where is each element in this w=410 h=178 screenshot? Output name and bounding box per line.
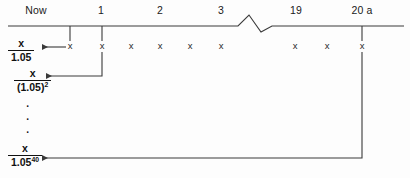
- ellipsis-dot: ·: [26, 100, 29, 113]
- cash-flow-mark: x: [325, 41, 330, 51]
- fraction-numerator: x: [8, 143, 42, 155]
- fraction-numerator: x: [14, 68, 51, 80]
- denominator-exponent: 2: [44, 80, 48, 87]
- diagram-line-layer: [0, 0, 410, 178]
- cash-flow-mark: x: [158, 41, 163, 51]
- cash-flow-mark: x: [100, 41, 105, 51]
- tick-drop-lines: [70, 26, 362, 41]
- fraction-denominator: (1.05)2: [14, 82, 51, 94]
- period-label-2: 2: [157, 4, 163, 16]
- cash-flow-mark: x: [293, 41, 298, 51]
- cash-flow-mark: x: [68, 41, 73, 51]
- discount-arrow-period-40: [42, 52, 362, 158]
- axis-line-with-break: [8, 15, 404, 32]
- timeline-axis: [8, 15, 404, 32]
- denominator-base: 1.05: [11, 156, 31, 168]
- discount-arrow-period-2: [46, 52, 102, 76]
- period-label-20a: 20 a: [351, 4, 372, 16]
- denominator-base: (1.05): [17, 81, 44, 93]
- discount-term-period-2: x (1.05)2: [14, 68, 51, 94]
- denominator-exponent: 40: [31, 155, 39, 162]
- discount-term-period-1: x 1.05: [8, 38, 34, 64]
- fraction-numerator: x: [8, 38, 34, 50]
- period-label-3: 3: [218, 4, 224, 16]
- cash-flow-mark: x: [360, 41, 365, 51]
- cash-flow-timeline-diagram: Now 1 2 3 19 20 a x x x x x x x x x x 1.…: [0, 0, 410, 178]
- fraction-denominator: 1.0540: [8, 157, 42, 169]
- cash-flow-mark: x: [219, 41, 224, 51]
- arrow-line-period-40: [42, 52, 362, 158]
- ellipsis-dot: ·: [26, 126, 29, 139]
- period-label-now: Now: [25, 4, 47, 16]
- fraction-denominator: 1.05: [8, 52, 34, 64]
- vertical-ellipsis: · · ·: [26, 100, 29, 139]
- arrow-line-period-2: [46, 52, 102, 76]
- discount-term-period-40: x 1.0540: [8, 143, 42, 169]
- period-label-19: 19: [290, 4, 302, 16]
- cash-flow-mark: x: [129, 41, 134, 51]
- cash-flow-mark: x: [188, 41, 193, 51]
- ellipsis-dot: ·: [26, 113, 29, 126]
- period-label-1: 1: [98, 4, 104, 16]
